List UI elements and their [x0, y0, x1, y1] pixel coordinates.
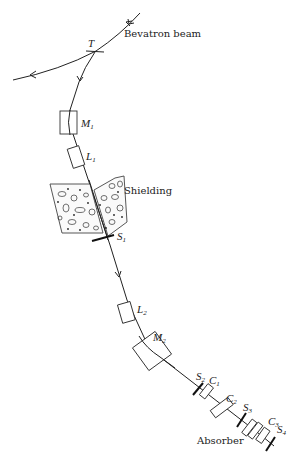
counter-s2-label: S2	[196, 370, 206, 384]
counter-s4-label: S4	[277, 423, 287, 437]
bevatron-beam-path	[13, 13, 140, 80]
absorber-label: Absorber	[196, 435, 244, 446]
cerenkov-c2-label: C2	[226, 392, 237, 406]
target-label: T	[88, 37, 95, 49]
lens-l1	[67, 146, 85, 169]
lens-l1-label: L1	[85, 150, 96, 164]
counter-s4	[266, 437, 275, 451]
counter-s1	[92, 235, 114, 241]
secondary-beam-path	[69, 52, 274, 446]
lens-l2	[117, 301, 135, 323]
target-marker	[86, 51, 104, 52]
magnet-m2-label: M2	[152, 331, 166, 345]
counter-s3-label: S3	[243, 401, 253, 415]
beamline-diagram: T M1 L1	[0, 0, 295, 468]
lens-l2-label: L2	[136, 303, 147, 317]
bevatron-beam-label: Bevatron beam	[124, 28, 202, 39]
shielding-label: Shielding	[124, 185, 173, 196]
magnet-m1-label: M1	[80, 117, 94, 131]
cerenkov-c1-label: C1	[209, 374, 220, 388]
shielding-block	[50, 176, 127, 236]
counter-s1-label: S1	[117, 230, 126, 244]
counter-s3	[237, 413, 246, 427]
